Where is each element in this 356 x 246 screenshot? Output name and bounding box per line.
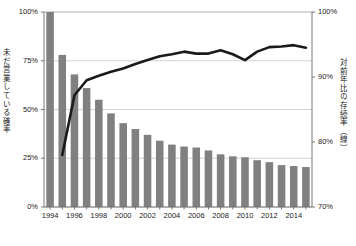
left-axis-tick-label: 100% [12,8,38,16]
right-axis-tick-label: 80% [318,138,346,146]
bar [302,167,310,207]
chart-container: 未だ営業している確率 対前年比の存続率（線） 0%25%50%75%100% 7… [0,0,356,246]
bar [253,160,261,207]
bar [217,154,225,207]
right-axis-tick-label: 100% [318,8,346,16]
x-axis-tick-label: 2000 [110,212,136,220]
x-axis-tick-label: 1996 [61,212,87,220]
x-axis-tick-label: 2006 [183,212,209,220]
bar [266,162,274,207]
right-axis-tick-label: 70% [318,203,346,211]
x-axis-tick-label: 1994 [37,212,63,220]
bar [229,156,237,207]
bar [59,55,67,207]
x-axis-tick-label: 2002 [135,212,161,220]
bar [95,100,103,207]
bar [107,113,115,207]
x-axis-tick-label: 2012 [256,212,282,220]
left-axis-title: 未だ営業している確率 [2,48,10,208]
x-axis-tick-label: 1998 [86,212,112,220]
bar [132,129,140,207]
plot-area [0,0,356,246]
bar [144,135,152,207]
left-axis-tick-label: 0% [12,203,38,211]
bar [156,141,164,207]
left-axis-tick-label: 50% [12,106,38,114]
axis-ticks [41,12,315,210]
x-axis-tick-label: 2008 [208,212,234,220]
bar [119,123,127,207]
x-axis-tick-label: 2004 [159,212,185,220]
bar [290,166,298,207]
left-axis-tick-label: 25% [12,154,38,162]
bar [83,88,91,207]
bar [46,12,54,207]
bar [193,148,201,207]
x-axis-tick-label: 2014 [281,212,307,220]
right-axis-tick-label: 90% [318,73,346,81]
bar [168,145,176,207]
x-axis-tick-label: 2010 [232,212,258,220]
left-axis-tick-label: 75% [12,57,38,65]
bar [180,147,188,207]
bar [205,150,213,207]
bar [241,157,249,207]
bar [278,165,286,207]
